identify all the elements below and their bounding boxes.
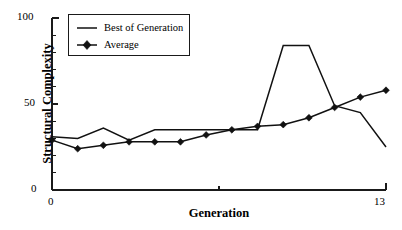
x-tick-label-0: 0: [48, 196, 54, 207]
legend-item-best-of-generation: Best of Generation: [69, 19, 189, 36]
data-point-marker: [331, 104, 338, 111]
y-tick-label-100: 100: [17, 11, 34, 22]
data-point-marker: [203, 132, 210, 139]
chart-legend: Best of Generation Average: [68, 14, 190, 56]
data-point-marker: [280, 121, 287, 128]
plot-canvas: [0, 0, 402, 230]
data-point-marker: [228, 126, 235, 133]
x-axis-title: Generation: [52, 206, 386, 221]
legend-line-diamond-icon: [75, 39, 99, 51]
data-point-marker: [100, 142, 107, 149]
chart-figure: Structural Complexity Generation 100 50 …: [0, 0, 402, 230]
legend-line-icon: [75, 22, 99, 34]
series-markers-average: [49, 87, 390, 152]
legend-item-average: Average: [69, 36, 189, 53]
legend-label-best-of-generation: Best of Generation: [99, 22, 183, 33]
data-point-marker: [74, 145, 81, 152]
data-point-marker: [177, 138, 184, 145]
data-point-marker: [306, 114, 313, 121]
y-tick-label-50: 50: [24, 97, 35, 108]
data-point-marker: [357, 94, 364, 101]
legend-label-average: Average: [99, 39, 139, 50]
series-line-average: [52, 90, 386, 148]
x-tick-label-13: 13: [374, 196, 385, 207]
data-point-marker: [383, 87, 390, 94]
y-tick-label-0: 0: [31, 183, 37, 194]
data-point-marker: [151, 138, 158, 145]
y-axis-title: Structural Complexity: [40, 9, 55, 199]
